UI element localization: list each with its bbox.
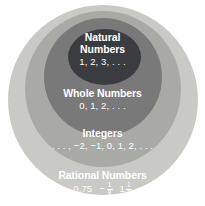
set-circle-natural-numbers <box>68 29 141 85</box>
number-sets-diagram: Natural Numbers 1, 2, 3, . . . Whole Num… <box>0 0 205 206</box>
